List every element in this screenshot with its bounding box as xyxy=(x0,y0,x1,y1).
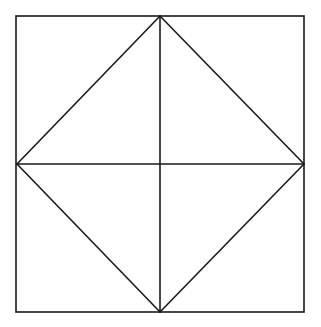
diamond-top-left xyxy=(17,16,160,164)
diagram-lines xyxy=(17,16,304,312)
diamond-bottom-right xyxy=(160,164,304,312)
square-diamond-diagram xyxy=(0,0,321,327)
diamond-top-right xyxy=(160,16,304,164)
diamond-bottom-left xyxy=(17,164,160,312)
